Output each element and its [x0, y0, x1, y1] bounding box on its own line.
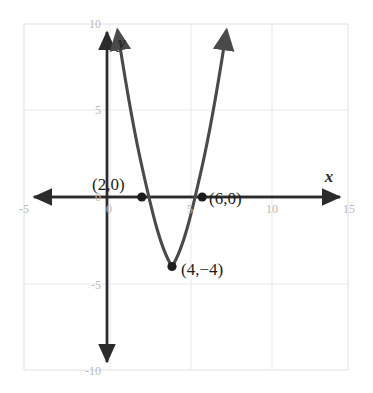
x-tick-label-15: 15	[343, 202, 355, 216]
point-root-right	[198, 192, 207, 201]
x-tick-label-10: 10	[266, 202, 278, 216]
parabola-graph: -5 0 5 10 15 10 5 0 -5 -10 y x (2,0) (6,…	[0, 0, 373, 393]
x-tick-label-5: 5	[187, 202, 193, 216]
y-tick-label-minus-5: -5	[91, 278, 101, 292]
point-vertex	[167, 262, 176, 271]
point-root-left	[137, 192, 146, 201]
x-tick-label-0: 0	[106, 202, 112, 216]
y-axis-name: y	[116, 33, 126, 52]
annotation-root-right: (6,0)	[209, 189, 242, 208]
annotation-vertex: (4,−4)	[181, 260, 223, 279]
y-tick-label-minus-10: -10	[85, 364, 101, 378]
graph-container: -5 0 5 10 15 10 5 0 -5 -10 y x (2,0) (6,…	[0, 0, 373, 393]
annotation-root-left: (2,0)	[92, 175, 125, 194]
x-axis-name: x	[324, 167, 334, 186]
y-tick-label-10: 10	[89, 17, 101, 31]
y-tick-label-5: 5	[95, 103, 101, 117]
x-tick-label-minus-5: -5	[19, 202, 29, 216]
